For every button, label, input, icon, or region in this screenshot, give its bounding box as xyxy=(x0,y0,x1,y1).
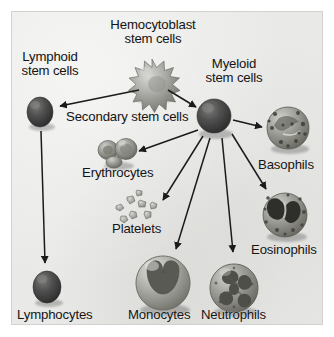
label-eosinophils: Eosinophils xyxy=(251,243,317,257)
label-myeloid-stem-cells: Myeloid stem cells xyxy=(192,57,276,86)
label-monocytes: Monocytes xyxy=(128,308,190,322)
arrow-hemocytoblast-to-myeloid xyxy=(168,90,196,107)
label-hemocytoblast: Hemocytoblast stem cells xyxy=(95,18,211,47)
label-lymphocytes: Lymphocytes xyxy=(17,308,93,322)
hematopoiesis-figure: Hemocytoblast stem cells Lymphoid stem c… xyxy=(0,0,334,337)
label-secondary-stem-cells: Secondary stem cells xyxy=(66,110,188,124)
arrow-myeloid-to-basophils xyxy=(233,120,262,127)
label-erythrocytes: Erythrocytes xyxy=(82,166,154,180)
label-lymphoid-stem-cells: Lymphoid stem cells xyxy=(8,50,92,79)
arrow-myeloid-to-erythrocytes xyxy=(139,130,198,151)
arrow-hemocytoblast-to-lymphoid xyxy=(60,90,139,106)
label-basophils: Basophils xyxy=(258,158,314,172)
arrow-myeloid-to-monocytes xyxy=(176,138,210,249)
label-platelets: Platelets xyxy=(112,222,161,236)
arrow-lymphoid-to-lymphocytes xyxy=(41,131,45,263)
arrow-myeloid-to-platelets xyxy=(163,136,203,200)
label-neutrophils: Neutrophils xyxy=(201,308,266,322)
arrow-myeloid-to-neutrophils xyxy=(222,138,233,252)
